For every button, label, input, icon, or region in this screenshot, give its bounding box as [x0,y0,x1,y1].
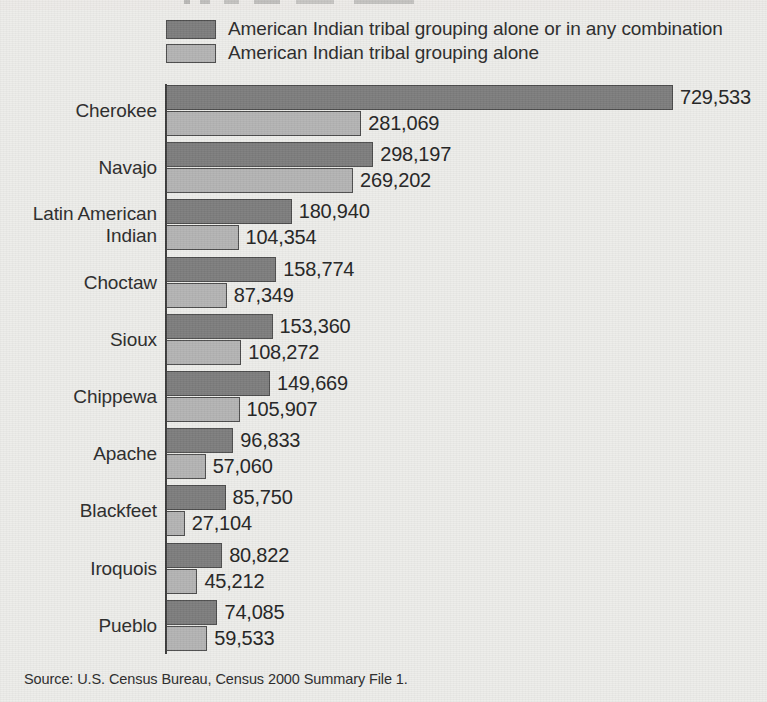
category-label: Blackfeet [0,500,166,522]
bar-row-alone: 105,907 [166,397,318,422]
category-label-line: Pueblo [0,615,157,637]
bar-value-label: 298,197 [380,143,451,166]
bar-alone [166,111,361,136]
bar-row-alone: 45,212 [166,569,264,594]
bar-value-label: 105,907 [247,398,318,421]
category-label-line: Indian [0,225,157,247]
bar-group: Latin AmericanIndian180,940104,354 [0,199,767,256]
bar-combination [166,600,217,625]
bar-value-label: 269,202 [360,169,431,192]
category-label: Latin AmericanIndian [0,203,166,247]
bar-group: Navajo298,197269,202 [0,142,767,199]
legend-item-combination: American Indian tribal grouping alone or… [166,17,723,41]
bar-combination [166,543,222,568]
bar-value-label: 59,533 [214,627,274,650]
category-label: Cherokee [0,100,166,122]
category-label: Navajo [0,157,166,179]
bar-value-label: 104,354 [246,226,317,249]
category-label-line: Chippewa [0,386,157,408]
bar-value-label: 96,833 [240,429,300,452]
bar-group: Sioux153,360108,272 [0,314,767,371]
bar-row-alone: 281,069 [166,111,439,136]
bar-row-combination: 74,085 [166,600,284,625]
category-label: Apache [0,443,166,465]
legend-label-alone: American Indian tribal grouping alone [228,42,539,64]
chart-legend: American Indian tribal grouping alone or… [166,17,723,65]
bar-value-label: 180,940 [299,200,370,223]
category-label-line: Latin American [0,203,157,225]
category-label: Sioux [0,329,166,351]
bar-group: Cherokee729,533281,069 [0,85,767,142]
bar-combination [166,314,273,339]
category-label-line: Navajo [0,157,157,179]
bar-group: Chippewa149,669105,907 [0,371,767,428]
legend-item-alone: American Indian tribal grouping alone [166,41,723,65]
bar-alone [166,340,241,365]
bar-row-combination: 149,669 [166,371,348,396]
category-axis-line [165,84,167,654]
category-label-line: Sioux [0,329,157,351]
bar-value-label: 80,822 [229,544,289,567]
bar-alone [166,225,239,250]
category-label-line: Cherokee [0,100,157,122]
bar-row-combination: 153,360 [166,314,350,339]
bar-alone [166,397,240,422]
bar-value-label: 281,069 [368,112,439,135]
bar-combination [166,485,226,510]
bar-alone [166,626,207,651]
bar-row-combination: 298,197 [166,142,451,167]
bar-group: Apache96,83357,060 [0,428,767,485]
legend-swatch-combination-icon [166,20,216,39]
bar-alone [166,569,197,594]
bar-row-combination: 729,533 [166,85,751,110]
bar-row-alone: 57,060 [166,454,273,479]
source-note: Source: U.S. Census Bureau, Census 2000 … [24,671,408,687]
bar-value-label: 729,533 [680,86,751,109]
bar-combination [166,428,233,453]
bar-row-combination: 180,940 [166,199,370,224]
bar-alone [166,283,227,308]
bar-row-combination: 96,833 [166,428,300,453]
bar-group: Pueblo74,08559,533 [0,600,767,657]
category-label-line: Iroquois [0,558,157,580]
bar-group: Blackfeet85,75027,104 [0,485,767,542]
cropped-title-ink [184,0,484,4]
bar-value-label: 87,349 [234,284,294,307]
bar-row-alone: 269,202 [166,168,431,193]
bar-value-label: 158,774 [283,258,354,281]
bar-group: Iroquois80,82245,212 [0,543,767,600]
bar-value-label: 149,669 [277,372,348,395]
bar-alone [166,511,185,536]
bar-row-combination: 158,774 [166,257,354,282]
bar-combination [166,199,292,224]
bar-alone [166,454,206,479]
bar-combination [166,371,270,396]
category-label: Iroquois [0,558,166,580]
chart-figure: American Indian tribal grouping alone or… [0,0,767,702]
bar-alone [166,168,353,193]
bar-combination [166,85,673,110]
bar-row-combination: 80,822 [166,543,289,568]
category-label: Chippewa [0,386,166,408]
bar-combination [166,142,373,167]
bar-value-label: 45,212 [204,570,264,593]
legend-swatch-alone-icon [166,44,216,63]
category-label-line: Blackfeet [0,500,157,522]
category-label-line: Choctaw [0,272,157,294]
bar-row-alone: 59,533 [166,626,274,651]
bar-value-label: 108,272 [248,341,319,364]
bar-row-alone: 104,354 [166,225,316,250]
bar-value-label: 85,750 [233,486,293,509]
bar-row-alone: 87,349 [166,283,294,308]
category-label: Choctaw [0,272,166,294]
bar-row-combination: 85,750 [166,485,293,510]
bar-value-label: 57,060 [213,455,273,478]
bar-value-label: 74,085 [224,601,284,624]
bar-group: Choctaw158,77487,349 [0,257,767,314]
category-label-line: Apache [0,443,157,465]
bar-value-label: 27,104 [192,512,252,535]
legend-label-combination: American Indian tribal grouping alone or… [228,18,723,40]
bar-row-alone: 27,104 [166,511,252,536]
bar-row-alone: 108,272 [166,340,319,365]
plot-area: Cherokee729,533281,069Navajo298,197269,2… [0,84,767,656]
